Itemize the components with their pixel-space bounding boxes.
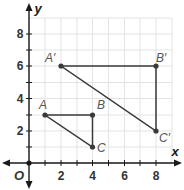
x-axis-label: x xyxy=(170,144,179,159)
x-tick-label: 8 xyxy=(153,169,160,183)
point-c-label: C xyxy=(97,141,106,155)
point-a-prime-label: A′ xyxy=(44,51,56,65)
point-b-label: B xyxy=(97,98,105,112)
x-tick-label: 4 xyxy=(89,169,96,183)
y-tick-label: 2 xyxy=(17,124,24,138)
point-c-prime-label: C′ xyxy=(159,131,171,145)
y-tick-label: 4 xyxy=(17,92,24,106)
y-tick-label: 6 xyxy=(17,59,24,73)
origin-label: O xyxy=(14,168,24,183)
y-tick-label: 8 xyxy=(17,27,24,41)
arrow-left-icon xyxy=(2,160,10,167)
arrow-down-icon xyxy=(26,181,33,189)
point-a xyxy=(42,112,47,117)
point-a-label: A xyxy=(38,98,47,112)
y-axis-label: y xyxy=(33,1,42,16)
arrow-right-icon xyxy=(174,160,182,167)
triangle-abc: A B C xyxy=(38,98,106,155)
point-b-prime-label: B′ xyxy=(156,51,167,65)
x-tick-label: 2 xyxy=(58,169,65,183)
point-c xyxy=(90,144,95,149)
coordinate-plane: 2 4 6 8 x 8 6 4 2 y O A B C xyxy=(0,0,184,190)
arrow-up-icon xyxy=(26,3,33,11)
point-c-prime xyxy=(153,128,158,133)
point-a-prime xyxy=(58,63,63,68)
x-tick-label: 6 xyxy=(121,169,128,183)
point-b xyxy=(90,112,95,117)
origin-point xyxy=(26,160,31,165)
